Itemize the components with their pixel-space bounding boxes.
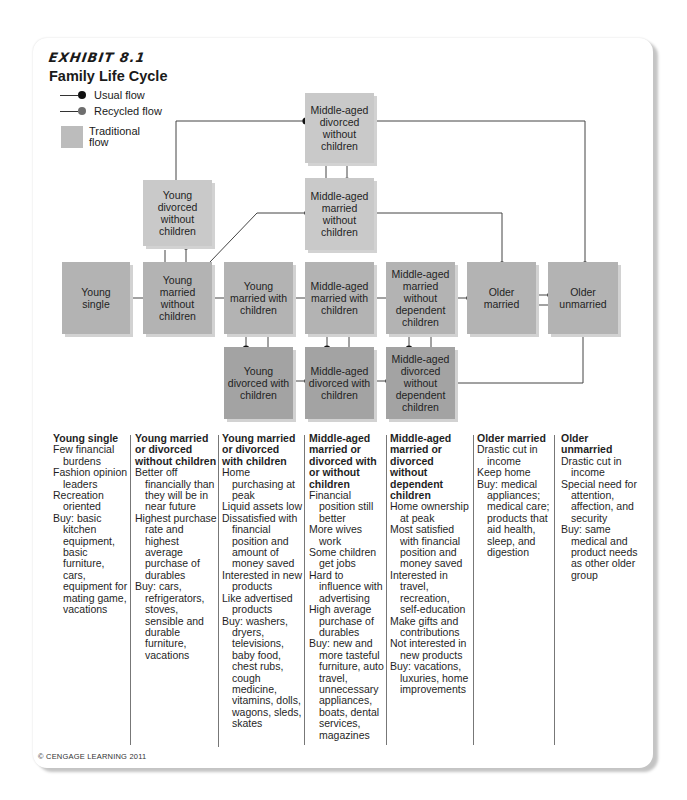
box-label: Middle-aged divorced without dependent c…	[386, 353, 455, 413]
column-item: Special need for attention, affection, a…	[561, 479, 639, 525]
box-label: Young married without children	[143, 274, 212, 322]
column-item: Buy: new and more tasteful furniture, au…	[309, 638, 387, 741]
box-label: Middle-aged divorced without children	[305, 104, 374, 152]
column-heading: Young married or divorced with children	[222, 433, 302, 467]
column-middle-aged-with-or-without-children: Middle-aged married or divorced with or …	[309, 433, 387, 741]
column-item: Drastic cut in income	[477, 444, 555, 467]
box-label: Middle-aged divorced with children	[305, 365, 374, 401]
column-item: Not interested in new products	[390, 638, 470, 661]
legend-usual-flow: Usual flow	[60, 89, 145, 101]
legend-traditional-flow-label: Traditional flow	[89, 126, 140, 148]
column-heading: Middle-aged married or divorced without …	[390, 433, 470, 501]
column-divider	[386, 435, 387, 745]
box-middle-aged-divorced-without-children: Middle-aged divorced without children	[305, 93, 374, 163]
column-young-married-with-children: Young married or divorced with children …	[222, 433, 302, 730]
column-item: Buy: vacations, luxuries, home improveme…	[390, 661, 470, 695]
column-item: Hard to influence with advertising	[309, 570, 387, 604]
box-middle-aged-married-without-children: Middle-aged married without children	[305, 178, 374, 250]
copyright-notice: © CENGAGE LEARNING 2011	[38, 752, 146, 761]
usual-flow-line-icon	[60, 95, 78, 96]
box-middle-aged-divorced-with-children: Middle-aged divorced with children	[305, 347, 374, 419]
column-item: Few financial burdens	[53, 444, 129, 467]
column-heading: Young married or divorced without childr…	[135, 433, 217, 467]
column-divider	[304, 435, 305, 745]
column-divider	[473, 435, 474, 745]
column-item: Fashion opinion leaders	[53, 467, 129, 490]
box-label: Young single	[69, 286, 123, 310]
column-divider	[554, 435, 555, 745]
box-young-single: Young single	[62, 262, 130, 334]
column-item: Better off financially than they will be…	[135, 467, 217, 513]
column-item: Recreation oriented	[53, 490, 129, 513]
box-label: Older unmarried	[553, 286, 613, 310]
exhibit-title: Family Life Cycle	[49, 68, 167, 84]
box-older-unmarried: Older unmarried	[548, 262, 618, 334]
column-item: Interested in travel, recreation, self-e…	[390, 570, 470, 616]
column-older-married: Older married Drastic cut in income Keep…	[477, 433, 555, 558]
column-item: Dissatisfied with financial position and…	[222, 513, 302, 570]
legend-usual-flow-label: Usual flow	[94, 89, 145, 101]
column-heading: Middle-aged married or divorced with or …	[309, 433, 387, 490]
column-older-unmarried: Older unmarried Drastic cut in income Sp…	[561, 433, 639, 581]
box-young-divorced-with-children: Young divorced with children	[224, 347, 293, 419]
column-middle-aged-without-dependent-children: Middle-aged married or divorced without …	[390, 433, 470, 695]
column-heading: Older unmarried	[561, 433, 639, 456]
usual-flow-dot-icon	[78, 91, 86, 99]
box-middle-aged-married-without-dependent-children: Middle-aged married without dependent ch…	[386, 262, 455, 334]
recycled-flow-dot-icon	[78, 107, 86, 115]
column-item: High average purchase of durables	[309, 604, 387, 638]
column-item: More wives work	[309, 524, 387, 547]
box-label: Older married	[478, 286, 526, 310]
box-label: Young divorced with children	[224, 365, 293, 401]
column-item: Home purchasing at peak	[222, 467, 302, 501]
column-item: Buy: basic kitchen equipment, basic furn…	[53, 513, 129, 616]
column-item: Buy: cars, refrigerators, stoves, sensib…	[135, 581, 217, 661]
column-item: Make gifts and contributions	[390, 616, 470, 639]
column-divider	[130, 435, 131, 745]
column-item: Home ownership at peak	[390, 501, 470, 524]
box-label: Middle-aged married with children	[305, 280, 374, 316]
column-item: Highest purchase rate and highest averag…	[135, 513, 217, 581]
column-item: Buy: washers, dryers, televisions, baby …	[222, 616, 302, 730]
legend-recycled-flow: Recycled flow	[60, 105, 162, 117]
box-older-married: Older married	[467, 262, 536, 334]
column-young-married-without-children: Young married or divorced without childr…	[135, 433, 217, 661]
column-item: Buy: same medical and product needs as o…	[561, 524, 639, 581]
column-item: Most satisfied with financial position a…	[390, 524, 470, 570]
box-label: Middle-aged married without children	[305, 190, 374, 238]
exhibit-label: EXHIBIT 8.1	[48, 50, 147, 65]
box-middle-aged-married-with-children: Middle-aged married with children	[305, 262, 374, 334]
box-young-married-without-children: Young married without children	[143, 262, 212, 334]
box-label: Middle-aged married without dependent ch…	[386, 268, 455, 328]
box-middle-aged-divorced-without-dependent-children: Middle-aged divorced without dependent c…	[386, 347, 455, 419]
box-young-married-with-children: Young married with children	[224, 262, 293, 334]
column-item: Some children get jobs	[309, 547, 387, 570]
column-divider	[218, 435, 219, 747]
column-item: Financial position still better	[309, 490, 387, 524]
column-young-single: Young single Few financial burdens Fashi…	[53, 433, 129, 616]
column-item: Like advertised products	[222, 593, 302, 616]
recycled-flow-line-icon	[60, 111, 78, 112]
column-item: Keep home	[477, 467, 555, 478]
box-label: Young divorced without children	[143, 189, 212, 237]
column-item: Drastic cut in income	[561, 456, 639, 479]
box-young-divorced-without-children: Young divorced without children	[143, 180, 212, 246]
traditional-flow-swatch-icon	[61, 126, 83, 148]
column-item: Buy: medical appliances; medical care; p…	[477, 479, 555, 559]
legend-recycled-flow-label: Recycled flow	[94, 105, 162, 117]
column-item: Interested in new products	[222, 570, 302, 593]
box-label: Young married with children	[224, 280, 293, 316]
